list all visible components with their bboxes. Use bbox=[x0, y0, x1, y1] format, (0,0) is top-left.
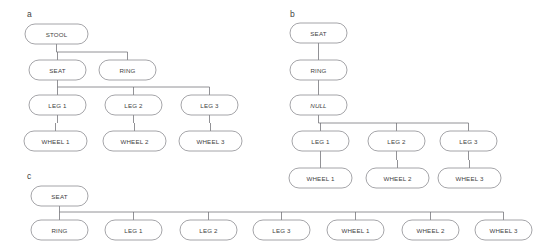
node-a-seat[interactable]: SEAT bbox=[29, 60, 86, 80]
node-label: WHEEL 3 bbox=[197, 138, 225, 145]
diagram-canvas: STOOLSEATRINGLEG 1LEG 2LEG 3WHEEL 1WHEEL… bbox=[0, 0, 552, 252]
node-c-ring[interactable]: RING bbox=[31, 220, 88, 240]
node-label: SEAT bbox=[49, 67, 65, 74]
node-a-stool[interactable]: STOOL bbox=[25, 24, 88, 44]
node-label: WHEEL 2 bbox=[417, 227, 445, 234]
node-c-leg3[interactable]: LEG 3 bbox=[253, 220, 310, 240]
edge-group bbox=[469, 151, 470, 168]
node-label: WHEEL 1 bbox=[307, 175, 335, 182]
node-b-seat[interactable]: SEAT bbox=[290, 23, 347, 43]
node-label: RING bbox=[119, 67, 135, 74]
panel-label-b: b bbox=[290, 9, 295, 19]
node-label: WHEEL 2 bbox=[121, 138, 149, 145]
node-a-leg1[interactable]: LEG 1 bbox=[29, 95, 86, 115]
node-c-wheel1[interactable]: WHEEL 1 bbox=[327, 220, 384, 240]
node-label: LEG 2 bbox=[387, 138, 406, 145]
node-b-wheel1[interactable]: WHEEL 1 bbox=[289, 168, 352, 188]
node-label: RING bbox=[310, 67, 326, 74]
node-c-seat[interactable]: SEAT bbox=[31, 186, 88, 206]
node-label: LEG 3 bbox=[272, 227, 291, 234]
node-a-leg3[interactable]: LEG 3 bbox=[181, 95, 238, 115]
node-c-leg1[interactable]: LEG 1 bbox=[105, 220, 162, 240]
edge-group bbox=[397, 151, 398, 168]
node-c-wheel3[interactable]: WHEEL 3 bbox=[475, 220, 532, 240]
edge-group bbox=[210, 115, 211, 131]
node-b-leg3[interactable]: LEG 3 bbox=[440, 131, 497, 151]
node-label: WHEEL 3 bbox=[490, 227, 518, 234]
edge-group bbox=[60, 206, 504, 220]
node-label: STOOL bbox=[46, 31, 68, 38]
node-label: NULL bbox=[310, 102, 327, 109]
node-label: LEG 3 bbox=[459, 138, 478, 145]
edge-group bbox=[56, 115, 58, 131]
node-label: LEG 1 bbox=[48, 102, 67, 109]
node-b-ring[interactable]: RING bbox=[290, 60, 347, 80]
edge-group bbox=[57, 44, 128, 60]
node-label: LEG 1 bbox=[311, 138, 330, 145]
node-b-null[interactable]: NULL bbox=[290, 95, 347, 115]
node-label: SEAT bbox=[310, 30, 326, 37]
node-label: LEG 2 bbox=[199, 227, 218, 234]
node-label: LEG 2 bbox=[124, 102, 143, 109]
node-a-ring[interactable]: RING bbox=[99, 60, 156, 80]
node-a-wheel1[interactable]: WHEEL 1 bbox=[24, 131, 87, 151]
node-label: WHEEL 3 bbox=[456, 175, 484, 182]
node-a-wheel3[interactable]: WHEEL 3 bbox=[179, 131, 242, 151]
node-label: WHEEL 1 bbox=[42, 138, 70, 145]
node-label: SEAT bbox=[51, 193, 67, 200]
node-label: WHEEL 2 bbox=[384, 175, 412, 182]
edge-group bbox=[134, 115, 135, 131]
edge-group bbox=[58, 80, 210, 95]
node-label: LEG 1 bbox=[124, 227, 143, 234]
node-label: LEG 3 bbox=[200, 102, 219, 109]
panel-label-a: a bbox=[27, 9, 32, 19]
node-label: RING bbox=[51, 227, 67, 234]
node-c-wheel2[interactable]: WHEEL 2 bbox=[402, 220, 459, 240]
node-label: WHEEL 1 bbox=[342, 227, 370, 234]
node-b-leg2[interactable]: LEG 2 bbox=[368, 131, 425, 151]
node-b-wheel2[interactable]: WHEEL 2 bbox=[366, 168, 429, 188]
node-b-leg1[interactable]: LEG 1 bbox=[292, 131, 349, 151]
panel-label-c: c bbox=[27, 171, 32, 181]
node-c-leg2[interactable]: LEG 2 bbox=[180, 220, 237, 240]
node-a-wheel2[interactable]: WHEEL 2 bbox=[103, 131, 166, 151]
edge-group bbox=[319, 115, 469, 131]
tree-diagram-figure: STOOLSEATRINGLEG 1LEG 2LEG 3WHEEL 1WHEEL… bbox=[0, 0, 552, 252]
node-a-leg2[interactable]: LEG 2 bbox=[105, 95, 162, 115]
node-b-wheel3[interactable]: WHEEL 3 bbox=[438, 168, 501, 188]
node-layer: STOOLSEATRINGLEG 1LEG 2LEG 3WHEEL 1WHEEL… bbox=[24, 23, 532, 240]
